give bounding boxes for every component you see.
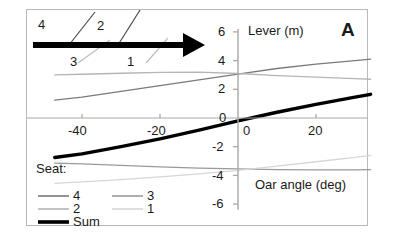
- series-line-4: [55, 59, 371, 100]
- figure-panel-a: 6 4 2 0 -2 -4 -6 -40 -20 0 20 Lever (m) …: [0, 0, 395, 244]
- callout-label-3: 3: [70, 55, 77, 68]
- y-tick-label-6: 6: [218, 25, 225, 38]
- x-tick-label-neg20: -20: [147, 124, 166, 137]
- callout-leader-line: [69, 12, 95, 45]
- legend-label-1: 1: [147, 202, 154, 215]
- x-tick-label-20: 20: [308, 124, 322, 137]
- callout-leader-line: [146, 38, 168, 63]
- panel-label: A: [341, 20, 355, 39]
- y-tick-label-4: 4: [218, 54, 225, 67]
- y-tick-label-neg6: -6: [212, 197, 224, 210]
- legend-label-sum: Sum: [73, 215, 100, 228]
- legend-header: Seat:: [36, 162, 66, 175]
- y-tick-label-neg4: -4: [212, 169, 224, 182]
- chart-canvas: [0, 0, 395, 244]
- series-layer: [55, 59, 371, 183]
- callout-label-1: 1: [127, 55, 134, 68]
- x-tick-label-0: 0: [243, 124, 250, 137]
- y-tick-label-0: 0: [219, 111, 226, 124]
- callout-leader-line: [118, 10, 140, 45]
- x-axis-title: Oar angle (deg): [255, 178, 346, 191]
- annotation-layer: [33, 10, 205, 63]
- y-tick-label-neg2: -2: [212, 140, 224, 153]
- x-tick-label-neg40: -40: [68, 124, 87, 137]
- callout-label-4: 4: [38, 18, 45, 31]
- y-axis-title: Lever (m): [248, 24, 304, 37]
- annotation-arrow-head: [183, 33, 205, 57]
- y-tick-label-2: 2: [218, 82, 225, 95]
- callout-label-2: 2: [97, 19, 104, 32]
